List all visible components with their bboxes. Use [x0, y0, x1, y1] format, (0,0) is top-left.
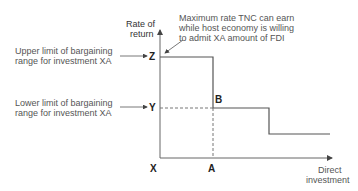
x-axis-label-1: Direct	[318, 165, 342, 175]
y-axis-label-2: return	[130, 29, 154, 39]
lower-limit-annotation-2: range for investment XA	[15, 108, 112, 118]
point-a-label: A	[208, 164, 215, 174]
lower-limit-annotation-1: Lower limit of bargaining	[15, 98, 113, 108]
max-rate-line	[160, 57, 330, 134]
upper-limit-annotation-2: range for investment XA	[15, 56, 112, 66]
max-rate-annotation-1: Maximum rate TNC can earn	[179, 13, 294, 23]
point-x-origin-label: X	[150, 164, 157, 174]
max-rate-annotation-3: to admit XA amount of FDI	[179, 33, 285, 43]
point-y-label: Y	[149, 103, 156, 113]
upper-limit-annotation-1: Upper limit of bargaining	[15, 46, 113, 56]
y-axis-label-1: Rate of	[126, 19, 155, 29]
point-b-label: B	[215, 95, 222, 105]
x-axis-label-2: investment	[306, 175, 350, 185]
max-rate-annotation-2: while host economy is willing	[179, 23, 294, 33]
point-z-label: Z	[149, 52, 155, 62]
